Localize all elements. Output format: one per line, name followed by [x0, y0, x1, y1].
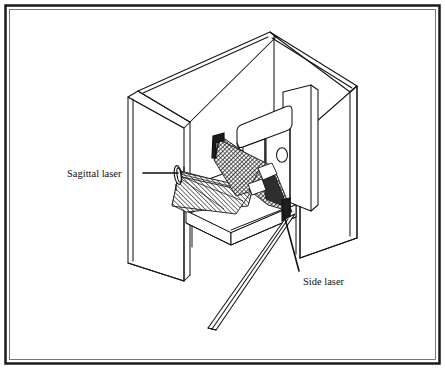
- figure-container: Sagittal laser Side laser: [0, 0, 445, 369]
- sagittal-laser-label: Sagittal laser: [67, 168, 122, 179]
- gantry-port-icon: [277, 148, 288, 162]
- laser-alignment-diagram: Sagittal laser Side laser: [0, 0, 445, 369]
- side-laser-label: Side laser: [303, 276, 345, 287]
